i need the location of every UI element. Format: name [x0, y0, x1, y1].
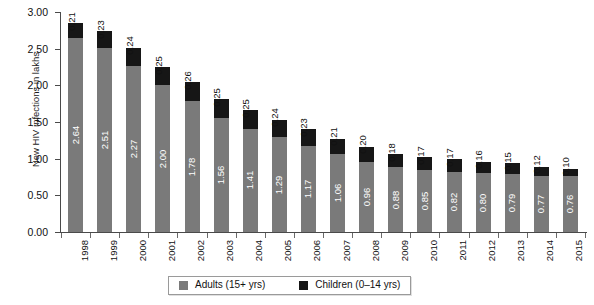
x-axis-tick-mark — [439, 233, 440, 238]
bar-value-label-adults: 0.80 — [478, 193, 488, 212]
bar-value-label-children: 0.10 — [561, 158, 571, 177]
bar-value-label-children: 0.23 — [299, 118, 309, 137]
x-axis-tick-label: 2014 — [545, 240, 555, 261]
x-axis-tick-label: 1999 — [109, 240, 119, 261]
x-axis-tick-mark — [410, 233, 411, 238]
bar-value-label-adults: 2.64 — [71, 126, 81, 145]
x-axis-tick-label: 2009 — [400, 240, 410, 261]
bar-segment-adults[interactable]: 0.88 — [388, 167, 403, 232]
bar-value-label-children: 0.26 — [183, 71, 193, 90]
x-axis-line — [61, 232, 587, 233]
bar-segment-adults[interactable]: 1.29 — [272, 137, 287, 232]
x-axis-tick-mark — [381, 233, 382, 238]
bar-segment-adults[interactable]: 1.78 — [185, 101, 200, 232]
bar-segment-adults[interactable]: 2.64 — [68, 38, 83, 232]
bar-value-label-adults: 0.79 — [507, 194, 517, 213]
y-axis-tick-label: 3.00 — [14, 7, 48, 18]
bar-value-label-children: 0.20 — [357, 136, 367, 155]
x-axis-tick-label: 2001 — [167, 240, 177, 261]
x-axis-tick-mark — [323, 233, 324, 238]
bar-value-label-children: 0.25 — [153, 56, 163, 75]
bar-value-label-adults: 1.56 — [216, 166, 226, 185]
x-axis-tick-mark — [90, 233, 91, 238]
bar-segment-adults[interactable]: 0.77 — [534, 176, 549, 232]
x-axis-tick-label: 2006 — [312, 240, 322, 261]
y-axis-tick-label: 1.00 — [14, 154, 48, 165]
x-axis-tick-label: 2011 — [458, 240, 468, 260]
bar-value-label-adults: 1.41 — [245, 171, 255, 190]
x-axis-tick-label: 2008 — [371, 240, 381, 261]
x-axis-tick-label: 2004 — [254, 240, 264, 261]
bar-segment-adults[interactable]: 2.51 — [97, 48, 112, 232]
bar-segment-adults[interactable]: 0.85 — [417, 170, 432, 232]
bar-value-label-adults: 0.76 — [566, 195, 576, 214]
x-axis-tick-label: 2003 — [225, 240, 235, 261]
bar-value-label-adults: 0.85 — [420, 192, 430, 211]
x-axis-tick-label: 2015 — [574, 240, 584, 261]
chart-legend: Adults (15+ yrs)Children (0–14 yrs) — [168, 276, 411, 295]
y-axis-tick-label: 2.00 — [14, 80, 48, 91]
x-axis-tick-mark — [294, 233, 295, 238]
y-axis-tick-labels: 3.002.502.001.501.000.500.00 — [14, 0, 48, 240]
bar-value-label-children: 0.21 — [328, 128, 338, 147]
x-axis-tick-mark — [585, 233, 586, 238]
bar-value-label-adults: 2.51 — [100, 131, 110, 150]
x-axis-tick-label: 2012 — [487, 240, 497, 261]
bar-segment-adults[interactable]: 1.06 — [330, 154, 345, 232]
legend-label: Adults (15+ yrs) — [195, 280, 265, 290]
x-axis-tick-mark — [177, 233, 178, 238]
bar-value-label-adults: 1.29 — [275, 175, 285, 194]
x-axis-tick-mark — [207, 233, 208, 238]
bar-segment-adults[interactable]: 2.00 — [155, 85, 170, 232]
legend-swatch-adults — [179, 281, 188, 290]
x-axis-tick-label: 2002 — [196, 240, 206, 261]
bar-value-label-children: 0.24 — [124, 37, 134, 56]
y-axis-tick-label: 0.50 — [14, 190, 48, 201]
bar-segment-adults[interactable]: 0.82 — [447, 172, 462, 232]
bar-value-label-children: 0.17 — [415, 146, 425, 165]
bar-segment-adults[interactable]: 2.27 — [126, 66, 141, 232]
plot-area: 2.640.212.510.232.270.242.000.251.780.26… — [61, 12, 585, 232]
bar-value-label-children: 0.21 — [66, 12, 76, 31]
legend-item[interactable]: Children (0–14 yrs) — [299, 280, 400, 290]
bar-value-label-children: 0.18 — [386, 143, 396, 162]
bar-value-label-children: 0.25 — [212, 88, 222, 107]
bar-value-label-children: 0.24 — [270, 109, 280, 128]
bar-segment-adults[interactable]: 0.80 — [476, 173, 491, 232]
bar-value-label-adults: 2.00 — [158, 149, 168, 168]
x-axis-tick-mark — [148, 233, 149, 238]
x-axis-tick-label: 2000 — [138, 240, 148, 261]
bar-value-label-children: 0.23 — [95, 20, 105, 39]
bar-value-label-children: 0.25 — [241, 99, 251, 118]
x-axis-tick-mark — [527, 233, 528, 238]
y-axis-tick-label: 1.50 — [14, 117, 48, 128]
bar-segment-adults[interactable]: 1.41 — [243, 129, 258, 232]
bar-value-label-adults: 1.78 — [187, 157, 197, 176]
x-axis-tick-mark — [61, 233, 62, 238]
legend-swatch-children — [299, 281, 308, 290]
x-axis-tick-mark — [556, 233, 557, 238]
bar-value-label-adults: 0.77 — [537, 195, 547, 214]
bar-value-label-children: 0.12 — [532, 155, 542, 174]
legend-item[interactable]: Adults (15+ yrs) — [179, 280, 265, 290]
bar-value-label-adults: 0.96 — [362, 188, 372, 207]
bar-value-label-children: 0.16 — [474, 150, 484, 169]
bar-value-label-adults: 0.82 — [449, 193, 459, 212]
x-axis-tick-mark — [498, 233, 499, 238]
x-axis-tick-mark — [236, 233, 237, 238]
y-axis-tick-label: 2.50 — [14, 44, 48, 55]
bar-value-label-adults: 0.88 — [391, 190, 401, 209]
bar-segment-adults[interactable]: 1.17 — [301, 146, 316, 232]
bar-segment-adults[interactable]: 1.56 — [214, 118, 229, 232]
bar-value-label-adults: 1.06 — [333, 184, 343, 203]
bar-segment-adults[interactable]: 0.76 — [563, 176, 578, 232]
y-axis-tick-label: 0.00 — [14, 227, 48, 238]
bar-segment-adults[interactable]: 0.96 — [359, 162, 374, 232]
x-axis-tick-mark — [469, 233, 470, 238]
bar-value-label-adults: 1.17 — [304, 180, 314, 199]
legend-label: Children (0–14 yrs) — [315, 280, 400, 290]
x-axis-tick-mark — [265, 233, 266, 238]
x-axis-tick-mark — [352, 233, 353, 238]
stacked-bar-chart: New HIV infections in lakhs 3.002.502.00… — [0, 0, 594, 305]
bar-segment-adults[interactable]: 0.79 — [505, 174, 520, 232]
